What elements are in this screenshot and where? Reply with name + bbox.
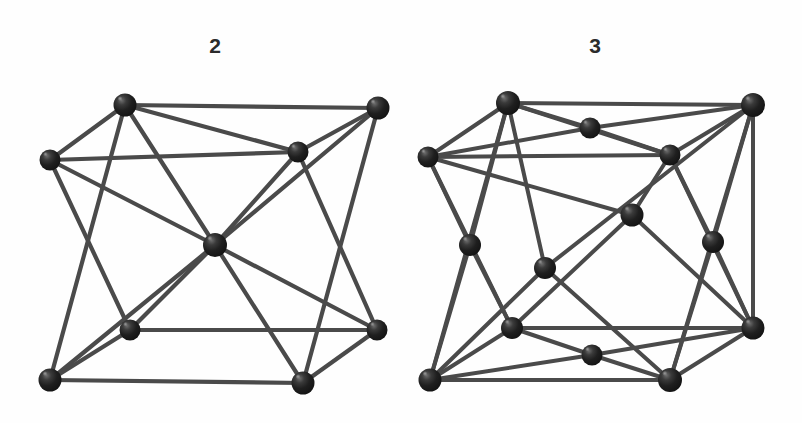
lattice-edge	[508, 103, 590, 128]
lattice-edge	[50, 380, 303, 383]
node-sphere	[367, 97, 390, 120]
lattice-node-front-bottom-left	[39, 369, 62, 392]
node-specular-highlight	[584, 347, 593, 356]
node-specular-highlight	[370, 99, 380, 109]
lattice-figure: 2 3	[0, 0, 802, 423]
lattice-edge	[470, 103, 508, 245]
lattice-edge	[125, 105, 298, 152]
lattice-node-face-center-right	[702, 231, 724, 253]
lattice-edge	[670, 105, 753, 380]
node-specular-highlight	[582, 120, 591, 129]
lattice-edge	[508, 103, 753, 105]
lattice-edge	[125, 105, 215, 245]
lattice-edge	[592, 328, 753, 355]
node-specular-highlight	[624, 206, 634, 216]
lattice-edge	[428, 157, 632, 215]
lattice-node-back-top-left	[40, 150, 61, 171]
lattice-edge	[512, 328, 592, 355]
node-specular-highlight	[42, 371, 52, 381]
lattice-edge	[215, 152, 298, 245]
lattice-edge	[430, 268, 545, 380]
node-specular-highlight	[290, 144, 299, 153]
lattice-edge	[590, 105, 753, 128]
lattice-edge	[430, 355, 592, 380]
lattice-node-front-bottom-right	[658, 368, 682, 392]
lattice-edge	[670, 105, 753, 155]
lattice-edge	[298, 108, 378, 152]
node-specular-highlight	[295, 374, 305, 384]
lattice-edge	[125, 105, 378, 108]
node-sphere	[660, 145, 681, 166]
lattice-edge	[670, 155, 753, 328]
lattice-edge	[632, 155, 670, 215]
node-specular-highlight	[420, 149, 429, 158]
node-sphere	[496, 91, 520, 115]
node-sphere	[580, 118, 601, 139]
node-specular-highlight	[369, 322, 378, 331]
node-sphere	[292, 372, 315, 395]
lattice-node-front-top-right	[367, 97, 390, 120]
lattice-edge	[428, 128, 590, 157]
node-sphere	[40, 150, 61, 171]
node-sphere	[658, 368, 682, 392]
node-specular-highlight	[662, 147, 671, 156]
node-specular-highlight	[744, 96, 754, 106]
node-sphere	[741, 93, 765, 117]
node-specular-highlight	[422, 371, 432, 381]
lattice-edge	[215, 245, 303, 383]
lattice-edge	[50, 245, 215, 380]
lattice-node-face-center-top	[580, 118, 601, 139]
lattice-edge	[428, 157, 470, 245]
node-sphere	[582, 345, 603, 366]
node-specular-highlight	[499, 94, 509, 104]
lattice-edge	[713, 242, 753, 328]
lattice-node-back-bottom-right	[367, 320, 388, 341]
node-sphere	[742, 317, 765, 340]
lattice-node-face-center-bottom	[582, 345, 603, 366]
node-sphere	[418, 147, 439, 168]
lattice-edge	[590, 128, 670, 155]
lattice-edge	[50, 105, 125, 160]
lattice-node-front-top-left	[114, 94, 137, 117]
lattice-edge	[545, 105, 753, 268]
node-sphere	[114, 94, 137, 117]
lattice-node-back-top-right	[288, 142, 309, 163]
lattice-edge	[50, 160, 130, 330]
lattice-nodes	[39, 91, 766, 395]
node-specular-highlight	[504, 319, 513, 328]
lattice-node-front-top-left	[496, 91, 520, 115]
lattice-edges	[50, 103, 753, 383]
lattice-node-back-bottom-right	[742, 317, 765, 340]
lattice-edge	[430, 103, 508, 380]
node-sphere	[459, 234, 481, 256]
node-sphere	[288, 142, 309, 163]
node-specular-highlight	[537, 259, 546, 268]
lattice-edge	[50, 330, 130, 380]
lattice-node-front-bottom-right	[292, 372, 315, 395]
node-sphere	[501, 317, 523, 339]
unit-cell-label-bcc: 2	[185, 34, 245, 58]
lattice-edge	[670, 328, 753, 380]
node-sphere	[120, 320, 141, 341]
lattice-node-back-top-left	[418, 147, 439, 168]
node-sphere	[367, 320, 388, 341]
lattice-edge	[670, 242, 713, 380]
lattice-edge	[303, 108, 378, 383]
node-sphere	[534, 257, 556, 279]
node-specular-highlight	[122, 322, 131, 331]
lattice-edge	[50, 152, 298, 160]
lattice-edge	[298, 152, 377, 330]
node-specular-highlight	[42, 152, 51, 161]
lattice-edge	[50, 160, 215, 245]
lattice-edge	[508, 103, 670, 155]
lattice-node-back-bottom-left	[120, 320, 141, 341]
lattice-edge	[428, 103, 508, 157]
lattice-edge	[508, 103, 545, 268]
node-specular-highlight	[462, 236, 471, 245]
node-sphere	[419, 369, 442, 392]
node-sphere	[621, 204, 644, 227]
lattice-node-face-center-left	[459, 234, 481, 256]
node-specular-highlight	[206, 236, 216, 246]
node-specular-highlight	[661, 371, 671, 381]
lattice-node-body-center	[203, 233, 227, 257]
